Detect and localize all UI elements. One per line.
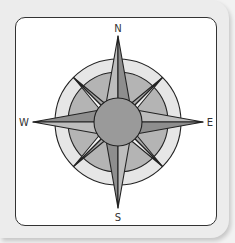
label-west: W — [19, 117, 29, 128]
center-disc — [94, 98, 142, 146]
compass-rose-icon: N S W E — [0, 0, 233, 243]
label-north: N — [114, 23, 121, 34]
label-south: S — [115, 212, 121, 223]
label-east: E — [207, 117, 213, 128]
